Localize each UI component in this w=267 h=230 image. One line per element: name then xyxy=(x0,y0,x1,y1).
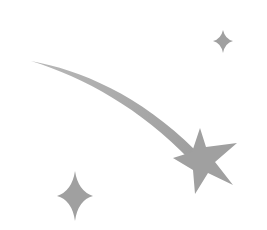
star-icon xyxy=(173,128,237,194)
comet-tail-icon xyxy=(31,61,195,160)
sparkle-large-icon xyxy=(57,171,93,221)
sparkle-small-icon xyxy=(213,30,233,53)
illustration-svg xyxy=(0,0,267,230)
shooting-star-illustration: Shooting star icon xyxy=(0,0,267,230)
